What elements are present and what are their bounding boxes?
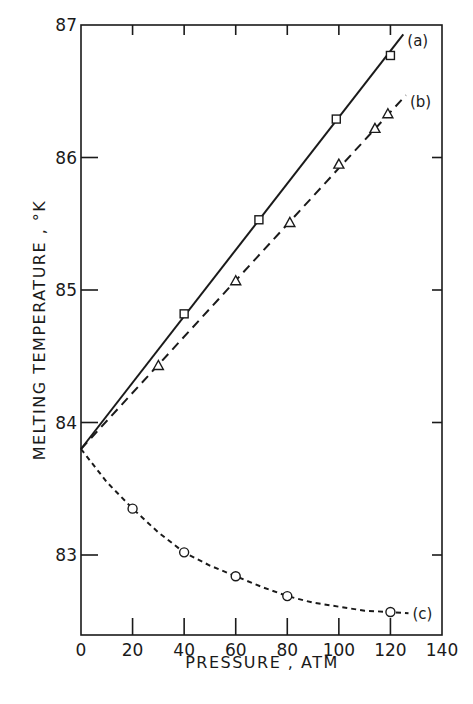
y-axis-title: MELTING TEMPERATURE , °K bbox=[30, 200, 49, 461]
triangle-marker bbox=[334, 159, 344, 168]
x-tick-label: 140 bbox=[426, 640, 458, 660]
circle-marker bbox=[128, 504, 137, 513]
series-b: (b) bbox=[81, 93, 431, 449]
x-axis-title: PRESSURE , ATM bbox=[185, 653, 339, 672]
square-marker bbox=[180, 310, 188, 318]
series-label: (c) bbox=[412, 605, 432, 623]
y-tick-label: 87 bbox=[55, 15, 77, 35]
series-label: (b) bbox=[410, 93, 431, 111]
y-tick-label: 85 bbox=[55, 280, 77, 300]
square-marker bbox=[332, 115, 340, 123]
y-tick-label: 83 bbox=[55, 545, 77, 565]
square-marker bbox=[386, 51, 394, 59]
y-tick-label: 86 bbox=[55, 148, 77, 168]
circle-marker bbox=[386, 607, 395, 616]
x-tick-label: 120 bbox=[374, 640, 406, 660]
circle-marker bbox=[231, 572, 240, 581]
series-a: (a) bbox=[81, 32, 428, 449]
y-tick-label: 84 bbox=[55, 413, 77, 433]
triangle-marker bbox=[153, 361, 163, 370]
data-series: (a)(b)(c) bbox=[81, 32, 432, 623]
triangle-marker bbox=[285, 217, 295, 226]
x-tick-label: 20 bbox=[122, 640, 144, 660]
axis-ticks: 0204060801001201408384858687 bbox=[55, 15, 458, 660]
circle-marker bbox=[283, 592, 292, 601]
x-tick-label: 0 bbox=[76, 640, 87, 660]
circle-marker bbox=[180, 548, 189, 557]
triangle-marker bbox=[383, 109, 393, 118]
square-marker bbox=[255, 216, 263, 224]
melting-temperature-chart: 0204060801001201408384858687 (a)(b)(c) P… bbox=[0, 0, 473, 704]
series-label: (a) bbox=[407, 32, 428, 50]
series-c: (c) bbox=[81, 449, 432, 623]
